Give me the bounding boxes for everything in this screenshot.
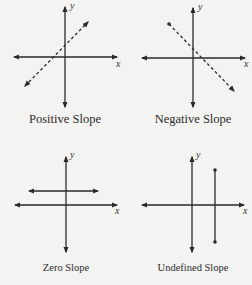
- caption-positive-slope: Positive Slope: [0, 112, 130, 127]
- panel-undefined-slope: x y: [142, 149, 248, 252]
- x-axis-label: x: [114, 205, 120, 216]
- y-axis-label: y: [195, 149, 201, 160]
- panel-positive-slope: x y: [14, 0, 121, 107]
- x-axis-label: x: [243, 58, 249, 69]
- y-axis-label: y: [197, 1, 203, 12]
- y-axis-label: y: [69, 0, 75, 11]
- panel-negative-slope: x y: [142, 1, 249, 107]
- x-axis-label: x: [242, 205, 248, 216]
- caption-undefined-slope: Undefined Slope: [128, 262, 252, 273]
- caption-negative-slope: Negative Slope: [128, 112, 252, 127]
- panel-zero-slope: x y: [15, 149, 120, 252]
- positive-slope-line: [25, 22, 88, 86]
- slope-diagram: x y x y x y x y: [0, 0, 252, 285]
- y-axis-label: y: [69, 149, 75, 160]
- caption-zero-slope: Zero Slope: [0, 262, 132, 273]
- x-axis-label: x: [115, 58, 121, 69]
